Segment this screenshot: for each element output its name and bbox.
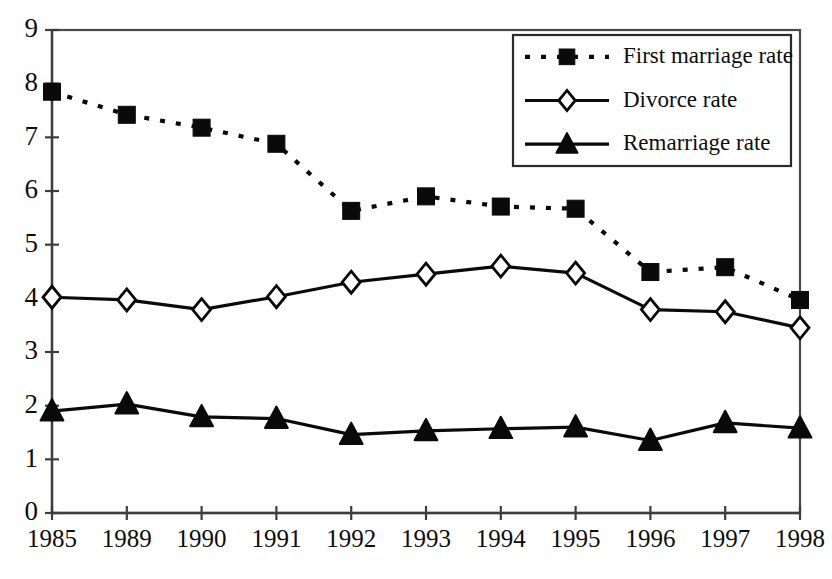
marker-filled-square [418, 188, 435, 205]
x-tick-label: 1993 [401, 525, 451, 552]
marker-filled-square [559, 49, 575, 65]
marker-filled-square [492, 198, 509, 215]
y-tick-label: 5 [25, 228, 39, 258]
series-divorce-rate [43, 255, 809, 339]
marker-open-diamond [567, 262, 585, 284]
marker-filled-square [118, 106, 135, 123]
y-tick-label: 4 [25, 282, 39, 312]
marker-open-diamond [342, 271, 360, 293]
y-tick-label: 6 [25, 174, 39, 204]
marker-open-diamond [417, 263, 435, 285]
marker-open-diamond [43, 286, 61, 308]
y-tick-label: 8 [25, 67, 39, 97]
x-tick-label: 1992 [326, 525, 376, 552]
y-axis-tick-labels: 0123456789 [25, 13, 39, 526]
marker-filled-square [268, 135, 285, 152]
marker-filled-square [44, 83, 61, 100]
marker-filled-square [792, 291, 809, 308]
marker-open-diamond [193, 299, 211, 321]
x-tick-label: 1995 [551, 525, 601, 552]
line-chart: 0123456789 19851989199019911992199319941… [0, 0, 832, 579]
x-tick-label: 1998 [775, 525, 825, 552]
legend-item-label: Remarriage rate [623, 130, 771, 155]
marker-filled-square [193, 119, 210, 136]
marker-filled-square [567, 200, 584, 217]
x-tick-label: 1997 [700, 525, 750, 552]
marker-open-diamond [118, 289, 136, 311]
marker-filled-square [717, 259, 734, 276]
x-tick-label: 1990 [177, 525, 227, 552]
y-tick-label: 0 [25, 496, 39, 526]
x-tick-label: 1989 [102, 525, 152, 552]
marker-filled-square [343, 202, 360, 219]
x-tick-label: 1985 [27, 525, 77, 552]
marker-filled-square [642, 264, 659, 281]
y-tick-label: 9 [25, 13, 39, 43]
marker-open-diamond [641, 299, 659, 321]
x-tick-label: 1991 [251, 525, 301, 552]
chart-legend: First marriage rateDivorce rateRemarriag… [513, 35, 793, 166]
y-tick-label: 3 [25, 335, 39, 365]
y-tick-label: 1 [25, 443, 39, 473]
legend-item-label: First marriage rate [623, 43, 793, 68]
chart-figure: 0123456789 19851989199019911992199319941… [0, 0, 832, 579]
marker-open-diamond [267, 286, 285, 308]
x-tick-label: 1994 [476, 525, 527, 552]
legend-item-label: Divorce rate [623, 87, 737, 112]
marker-filled-triangle [714, 411, 737, 432]
x-tick-label: 1996 [625, 525, 675, 552]
y-tick-label: 2 [25, 389, 39, 419]
marker-open-diamond [492, 255, 510, 277]
y-tick-label: 7 [25, 121, 39, 151]
marker-open-diamond [716, 301, 734, 323]
series-remarriage-rate [41, 392, 812, 450]
marker-filled-triangle [115, 392, 138, 413]
x-axis-tick-labels: 1985198919901991199219931994199519961997… [27, 525, 825, 552]
marker-open-diamond [791, 317, 809, 339]
